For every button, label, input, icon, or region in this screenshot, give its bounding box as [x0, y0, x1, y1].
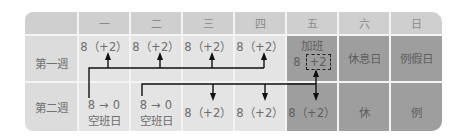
arrow-up-icon: [313, 69, 319, 77]
connector-week2-tue-to-others: [142, 75, 316, 96]
arrow-down-icon: [210, 93, 319, 101]
arrows-overlay: [0, 0, 462, 138]
arrow-up-icon: [105, 52, 267, 60]
connector-week2-mon-to-week1: [89, 58, 264, 98]
